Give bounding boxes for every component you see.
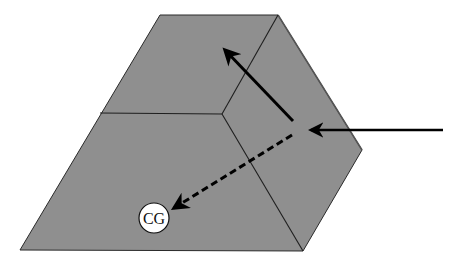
cg-label: CG — [143, 210, 166, 227]
force-diagram: CG — [0, 0, 461, 265]
cg-marker: CG — [139, 203, 169, 233]
block-body — [20, 15, 362, 251]
